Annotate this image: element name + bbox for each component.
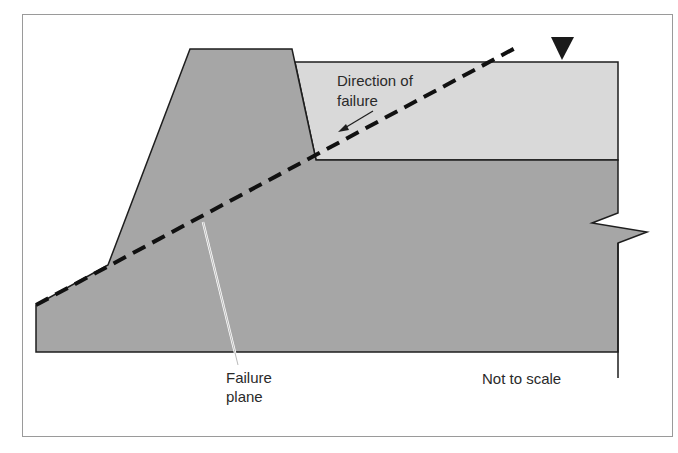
- direction-label-line1: Direction of: [337, 72, 414, 89]
- failure-label-line1: Failure: [226, 369, 272, 386]
- direction-label-line2: failure: [337, 92, 378, 109]
- failure-label-line2: plane: [226, 388, 263, 405]
- scale-note: Not to scale: [482, 370, 561, 387]
- failure-plane-diagram: Direction of failure Failure plane Not t…: [0, 0, 678, 453]
